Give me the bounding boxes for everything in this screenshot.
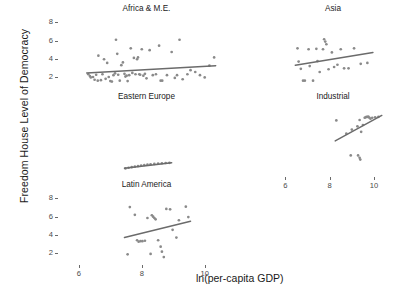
panel-title: Eastern Europe	[60, 92, 233, 101]
panel-plot-area	[272, 17, 394, 87]
data-point	[155, 73, 158, 76]
data-point	[123, 72, 126, 75]
data-point	[106, 62, 109, 65]
data-point	[131, 72, 134, 75]
panel-title: Africa & M.E.	[60, 4, 233, 13]
data-point	[139, 73, 142, 76]
x-tick-mark	[374, 177, 375, 180]
data-point	[166, 74, 169, 77]
data-point	[101, 73, 104, 76]
data-point	[129, 47, 132, 50]
data-point	[158, 44, 161, 47]
data-point	[194, 71, 197, 74]
data-point	[100, 79, 103, 82]
data-point	[203, 76, 206, 79]
x-tick-label: 6	[278, 181, 292, 190]
data-point	[325, 43, 328, 46]
panel-plot-area	[60, 193, 233, 263]
data-point	[199, 74, 202, 77]
data-point	[359, 62, 362, 65]
data-point	[339, 48, 342, 51]
data-point	[107, 76, 110, 79]
y-tick-mark	[55, 59, 58, 60]
y-tick-mark	[55, 253, 58, 254]
y-tick-label: 4	[39, 230, 53, 239]
x-tick-label: 10	[367, 181, 381, 190]
data-point	[189, 69, 192, 72]
x-tick-label: 10	[198, 269, 212, 278]
panel-asia: Asia	[272, 17, 394, 87]
data-point	[162, 256, 165, 259]
data-point	[343, 67, 346, 70]
data-point	[176, 74, 179, 77]
data-point	[92, 76, 95, 79]
data-point	[125, 74, 128, 77]
y-tick-mark	[55, 77, 58, 78]
y-tick-label: 8	[39, 17, 53, 26]
data-point	[184, 205, 187, 208]
data-point	[151, 74, 154, 77]
x-tick-label: 6	[72, 269, 86, 278]
panel-industrial: Industrial6810	[272, 105, 394, 175]
data-point	[128, 206, 131, 209]
data-point	[104, 77, 107, 80]
data-point	[308, 65, 311, 68]
y-axis-title: Freedom House Level of Democracy	[18, 6, 30, 226]
data-point	[97, 54, 100, 57]
data-point	[126, 253, 129, 256]
data-point	[165, 208, 168, 211]
data-point	[307, 48, 310, 51]
data-point	[324, 40, 327, 43]
scatter-plot-matrix-figure: Freedom House Level of Democracy ln(per-…	[0, 0, 402, 295]
y-tick-mark	[55, 217, 58, 218]
data-point	[170, 51, 173, 54]
data-point	[347, 67, 350, 70]
data-point	[333, 66, 336, 69]
data-point	[93, 78, 96, 81]
data-point	[111, 80, 114, 83]
data-point	[122, 61, 125, 64]
data-point	[303, 79, 306, 82]
data-point	[175, 236, 178, 239]
data-point	[336, 63, 339, 66]
data-point	[144, 72, 147, 75]
x-tick-mark	[79, 265, 80, 268]
data-point	[116, 52, 119, 55]
data-point	[134, 73, 137, 76]
x-tick-label: 8	[135, 269, 149, 278]
data-point	[181, 78, 184, 81]
data-point	[312, 79, 315, 82]
panel-plot-area	[272, 105, 394, 175]
data-point	[137, 56, 140, 59]
x-tick-mark	[142, 265, 143, 268]
panel-title: Asia	[272, 4, 394, 13]
panel-eastern-europe: Eastern Europe	[60, 105, 233, 175]
data-point	[171, 228, 174, 231]
y-tick-label: 6	[39, 36, 53, 45]
data-point	[213, 56, 216, 59]
y-tick-mark	[55, 235, 58, 236]
y-tick-mark	[55, 198, 58, 199]
panel-africa-m-e: Africa & M.E.2468	[60, 17, 233, 87]
data-point	[103, 58, 106, 61]
data-point	[118, 79, 121, 82]
data-point	[173, 77, 176, 80]
panel-plot-area	[60, 17, 233, 87]
x-tick-mark	[330, 177, 331, 180]
data-point	[315, 47, 318, 50]
data-point	[161, 79, 164, 82]
data-point	[120, 64, 123, 67]
data-point	[161, 250, 164, 253]
data-point	[297, 60, 300, 63]
data-point	[318, 71, 321, 74]
data-point	[141, 240, 144, 243]
data-point	[159, 245, 162, 248]
data-point	[371, 116, 374, 119]
panel-title: Industrial	[272, 92, 394, 101]
data-point	[145, 77, 148, 80]
data-point	[187, 216, 190, 219]
data-point	[353, 47, 356, 50]
x-tick-label: 8	[323, 181, 337, 190]
data-point	[95, 73, 98, 76]
data-point	[133, 57, 136, 60]
